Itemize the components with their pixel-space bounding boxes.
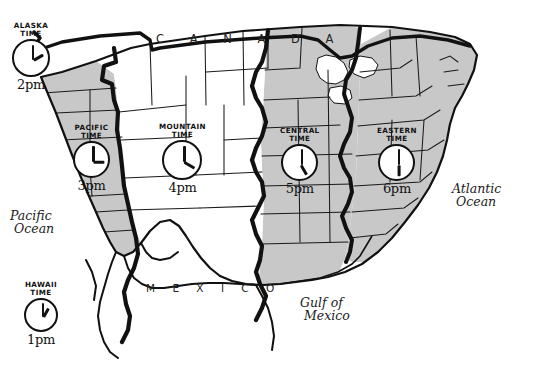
clock-face-hawaii	[24, 298, 58, 332]
clock-group-central: CENTRAL TIME 5pm	[280, 127, 320, 196]
clock-group-pacific: PACIFIC TIME 3pm	[73, 124, 110, 193]
zone-label-alaska: ALASKA TIME	[14, 22, 48, 38]
clock-face-central	[281, 144, 318, 181]
clock-group-hawaii: HAWAII TIME 1pm	[24, 281, 58, 347]
clock-time-hawaii: 1pm	[27, 332, 55, 347]
clock-minute-hand	[301, 149, 303, 164]
zone-label-eastern-line2: TIME	[377, 135, 417, 143]
clock-time-alaska: 2pm	[17, 77, 45, 92]
time-zone-map: C A N A D A M E X I C O Pacific Ocean At…	[0, 0, 533, 373]
clock-hour-hand	[184, 161, 196, 169]
clock-hour-hand	[93, 160, 104, 163]
zone-label-pacific: PACIFIC TIME	[75, 124, 109, 140]
clock-time-pacific: 3pm	[77, 178, 105, 193]
clock-minute-hand	[183, 146, 185, 162]
clock-time-eastern: 6pm	[383, 181, 411, 196]
clock-hour-hand	[398, 165, 401, 176]
zone-label-pacific-line2: TIME	[75, 132, 109, 140]
clock-face-eastern	[378, 144, 415, 181]
zone-label-hawaii-line2: TIME	[25, 289, 57, 297]
clock-time-mountain: 4pm	[168, 180, 196, 195]
clock-group-alaska: ALASKA TIME 2pm	[12, 22, 50, 92]
clock-group-eastern: EASTERN TIME 6pm	[377, 127, 417, 196]
zone-label-central: CENTRAL TIME	[280, 127, 320, 143]
zone-label-eastern: EASTERN TIME	[377, 127, 417, 143]
zone-label-mountain-line2: TIME	[159, 131, 206, 139]
clock-minute-hand	[92, 146, 94, 161]
clock-face-pacific	[73, 141, 110, 178]
clock-face-mountain	[162, 140, 202, 180]
clock-hour-hand	[301, 164, 309, 175]
clock-time-central: 5pm	[286, 181, 314, 196]
clock-minute-hand	[32, 45, 34, 61]
zone-label-alaska-line2: TIME	[14, 30, 48, 38]
clock-group-mountain: MOUNTAIN TIME 4pm	[159, 123, 206, 195]
clock-hour-hand	[32, 53, 43, 61]
clock-face-alaska	[12, 39, 50, 77]
clock-minute-hand	[398, 149, 400, 164]
clock-minute-hand	[42, 303, 44, 317]
zone-label-central-line2: TIME	[280, 135, 320, 143]
zone-label-hawaii: HAWAII TIME	[25, 281, 57, 297]
zone-label-mountain: MOUNTAIN TIME	[159, 123, 206, 139]
